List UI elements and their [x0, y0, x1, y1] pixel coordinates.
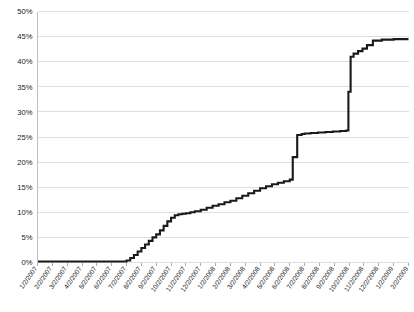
y-tick-label: 35%: [17, 83, 32, 92]
y-tick-label: 20%: [17, 158, 32, 167]
y-tick-label: 50%: [17, 7, 32, 16]
y-tick-label: 5%: [22, 233, 33, 242]
y-tick-label: 15%: [17, 183, 32, 192]
chart-canvas: 0%5%10%15%20%25%30%35%40%45%50% 1/2/2007…: [0, 0, 414, 312]
y-tick-label: 10%: [17, 208, 32, 217]
y-tick-label: 45%: [17, 32, 32, 41]
y-tick-label: 30%: [17, 108, 32, 117]
cumulative-percentage-step-chart: 0%5%10%15%20%25%30%35%40%45%50% 1/2/2007…: [0, 0, 414, 312]
y-tick-label: 40%: [17, 57, 32, 66]
y-tick-label: 25%: [17, 133, 32, 142]
